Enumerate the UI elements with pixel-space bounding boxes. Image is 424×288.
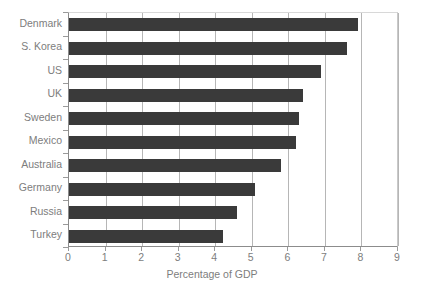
x-axis-label-1: 1 [93, 252, 117, 263]
y-axis-tick [63, 59, 68, 60]
bar-row [69, 87, 397, 103]
x-axis-label-4: 4 [202, 252, 226, 263]
bar-row [69, 205, 397, 221]
x-axis-label-9: 9 [385, 252, 409, 263]
bar-row [69, 181, 397, 197]
y-axis-tick [63, 153, 68, 154]
x-axis-label-2: 2 [129, 252, 153, 263]
gridline-9 [398, 13, 399, 246]
bar [69, 183, 255, 196]
bar-row [69, 17, 397, 33]
x-axis-label-3: 3 [166, 252, 190, 263]
y-axis-tick [63, 224, 68, 225]
x-axis-label-0: 0 [56, 252, 80, 263]
bar-series [69, 13, 397, 246]
x-axis-title: Percentage of GDP [0, 268, 424, 280]
bar [69, 65, 321, 78]
y-axis-label-sweden: Sweden [24, 112, 62, 123]
y-axis-label-germany: Germany [19, 182, 62, 193]
y-axis-tick [63, 200, 68, 201]
y-axis-tick [63, 83, 68, 84]
x-axis-label-7: 7 [312, 252, 336, 263]
bar [69, 159, 281, 172]
bar [69, 18, 358, 31]
bar [69, 206, 237, 219]
bar [69, 136, 296, 149]
bar-chart: DenmarkS. KoreaUSUKSwedenMexicoAustralia… [0, 0, 424, 288]
plot-area [68, 12, 398, 247]
y-axis-label-australia: Australia [21, 159, 62, 170]
bar-row [69, 111, 397, 127]
bar-row [69, 40, 397, 56]
y-axis-label-s-korea: S. Korea [21, 41, 62, 52]
bar-row [69, 134, 397, 150]
bar-row [69, 158, 397, 174]
y-axis-tick [63, 130, 68, 131]
y-axis-label-mexico: Mexico [29, 135, 62, 146]
x-axis-label-6: 6 [275, 252, 299, 263]
y-axis-label-us: US [47, 65, 62, 76]
x-axis-label-5: 5 [239, 252, 263, 263]
bar [69, 230, 223, 243]
bar [69, 112, 299, 125]
bar [69, 42, 347, 55]
y-axis-label-denmark: Denmark [19, 18, 62, 29]
x-axis-label-8: 8 [348, 252, 372, 263]
y-axis-label-turkey: Turkey [30, 229, 62, 240]
y-axis-label-russia: Russia [30, 206, 62, 217]
y-axis-tick [63, 36, 68, 37]
y-axis-tick [63, 12, 68, 13]
bar [69, 89, 303, 102]
y-axis-tick [63, 177, 68, 178]
bar-row [69, 64, 397, 80]
y-axis-label-uk: UK [47, 88, 62, 99]
bar-row [69, 228, 397, 244]
y-axis-tick [63, 106, 68, 107]
